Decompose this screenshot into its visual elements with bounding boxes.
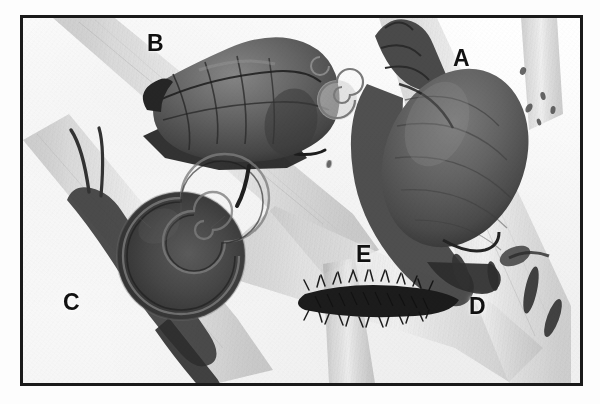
paper-grain: [23, 18, 580, 383]
plate-frame: A B C D E: [20, 15, 583, 386]
label-a: A: [453, 47, 470, 70]
figure-root: A B C D E: [0, 0, 600, 404]
plate-canvas: A B C D E: [23, 18, 580, 383]
label-d: D: [469, 295, 486, 318]
label-e: E: [356, 243, 371, 266]
label-c: C: [63, 291, 80, 314]
label-b: B: [147, 32, 164, 55]
